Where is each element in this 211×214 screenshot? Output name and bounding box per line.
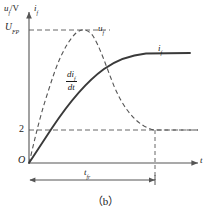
derivative-denominator: dt xyxy=(66,82,77,92)
two-tick-label: 2 xyxy=(19,124,24,134)
x-axis-label: t xyxy=(200,156,203,165)
figure-caption: （b） xyxy=(0,192,211,208)
y-axis-current-label: if xyxy=(34,4,38,15)
if-curve-label: if xyxy=(158,44,162,55)
plot-canvas xyxy=(0,0,211,214)
didt-derivative-label: dif dt xyxy=(66,70,77,92)
if-current-curve xyxy=(29,53,190,163)
y-axis-voltage-label: uf/V xyxy=(4,4,19,15)
tfr-span-label: tfr xyxy=(84,168,90,179)
uf-curve-label: uf xyxy=(98,24,104,35)
origin-label: O xyxy=(18,155,25,165)
uf-voltage-curve xyxy=(29,30,198,163)
forward-recovery-figure: uf/V if UFP 2 O uf if t tfr dif dt （b） xyxy=(0,0,211,214)
ufp-tick-label: UFP xyxy=(5,23,19,35)
derivative-numerator: dif xyxy=(66,70,77,82)
